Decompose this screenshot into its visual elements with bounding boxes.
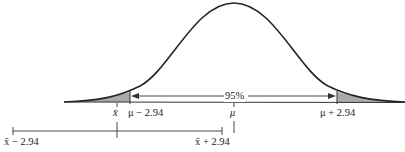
ci-right-label: x̄ + 2.94: [195, 137, 230, 148]
normal-distribution-diagram: 95% x̄ μ − 2.94 μ μ + 2.94 x̄ − 2.94 x̄ …: [0, 0, 405, 152]
mu-minus-label: μ − 2.94: [128, 108, 163, 119]
bell-curve: [64, 3, 405, 102]
mu-label: μ: [230, 108, 235, 119]
xbar-label: x̄: [113, 108, 118, 119]
center-label-95: 95%: [224, 91, 245, 102]
arrowhead-right: [328, 93, 336, 99]
x-axis: [64, 102, 405, 103]
arrowhead-left: [131, 93, 139, 99]
ci-left-label: x̄ − 2.94: [4, 137, 39, 148]
diagram-graphics: [0, 0, 405, 152]
mu-plus-label: μ + 2.94: [320, 108, 355, 119]
